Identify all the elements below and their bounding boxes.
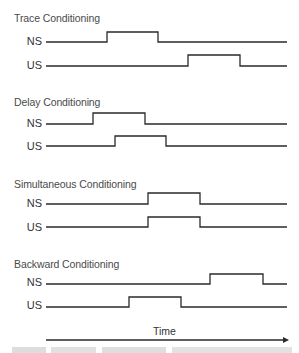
trace-us-signal [46,55,287,66]
time-axis-label: Time [153,325,176,337]
delay-us-signal [46,136,287,146]
time-arrow-icon [283,337,289,343]
backward-ns-signal [46,274,287,284]
backward-us-signal [46,297,287,307]
delay-ns-signal [46,113,287,124]
trace-ns-signal [46,32,287,42]
timing-diagram [0,0,299,353]
simultaneous-ns-signal [46,193,287,204]
simultaneous-us-signal [46,217,287,227]
cropped-caption [12,347,292,353]
